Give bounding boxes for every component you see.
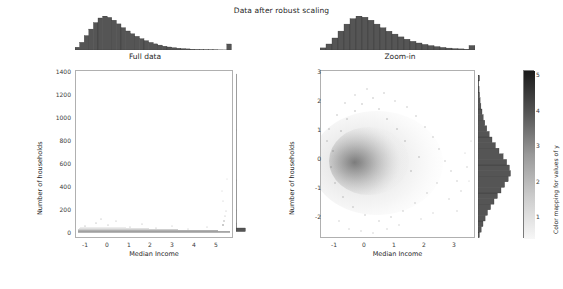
ytick: 1 [295, 126, 321, 133]
figure-canvas: Data after robust scaling Full data [0, 0, 563, 289]
ytick: 1000 [45, 114, 71, 121]
panel-title-full-data: Full data [50, 52, 240, 61]
xtick: 2 [138, 241, 162, 248]
xtick: 3 [442, 241, 466, 248]
xtick: 2 [412, 241, 436, 248]
hist-y-right-svg [478, 70, 512, 238]
ytick: -2 [295, 213, 321, 220]
hist-x-left-svg [75, 16, 233, 50]
full-data-xlabel: Median Income [75, 250, 233, 258]
xtick: 1 [382, 241, 406, 248]
colorbar-label: Color mapping for values of y [552, 145, 559, 234]
xtick: -1 [73, 241, 97, 248]
colorbar-tick: 2 [536, 178, 548, 185]
colorbar [523, 70, 534, 238]
ytick: 0 [295, 155, 321, 162]
zoom-in-xlabel: Median Income [320, 250, 475, 258]
ytick: 3 [295, 68, 321, 75]
full-data-ylabel: Number of households [36, 141, 44, 215]
ytick: 600 [45, 160, 71, 167]
colorbar-tick: 4 [536, 107, 548, 114]
colorbar-tick: 1 [536, 213, 548, 220]
ytick: -1 [295, 184, 321, 191]
colorbar-tick: 5 [536, 71, 548, 78]
colorbar-gradient [524, 71, 535, 239]
zoom-in-ylabel: Number of households [288, 141, 296, 215]
ytick: 1200 [45, 91, 71, 98]
xtick: 0 [95, 241, 119, 248]
full-data-marginal-x-hist [75, 16, 233, 50]
full-data-scatter-axes [75, 70, 233, 238]
xtick: 3 [160, 241, 184, 248]
ytick: 2 [295, 97, 321, 104]
ytick: 200 [45, 206, 71, 213]
zoom-in-scatter-axes [320, 70, 475, 238]
full-data-scatter-svg [76, 71, 234, 239]
colorbar-tick: 3 [536, 142, 548, 149]
ytick: 0 [45, 229, 71, 236]
xtick: 0 [352, 241, 376, 248]
hist-y-left-svg [236, 70, 246, 238]
xtick: -1 [322, 241, 346, 248]
ytick: 400 [45, 183, 71, 190]
xtick: 5 [204, 241, 228, 248]
xtick: 4 [182, 241, 206, 248]
figure-suptitle: Data after robust scaling [0, 6, 563, 15]
full-data-marginal-y-hist [236, 70, 246, 238]
hist-x-right-svg [320, 16, 475, 50]
zoom-in-marginal-x-hist [320, 16, 475, 50]
ytick: 1400 [45, 68, 71, 75]
zoom-in-marginal-y-hist [478, 70, 512, 238]
ytick: 800 [45, 137, 71, 144]
panel-title-zoom-in: Zoom-in [320, 52, 480, 61]
zoom-in-scatter-svg [321, 71, 476, 239]
